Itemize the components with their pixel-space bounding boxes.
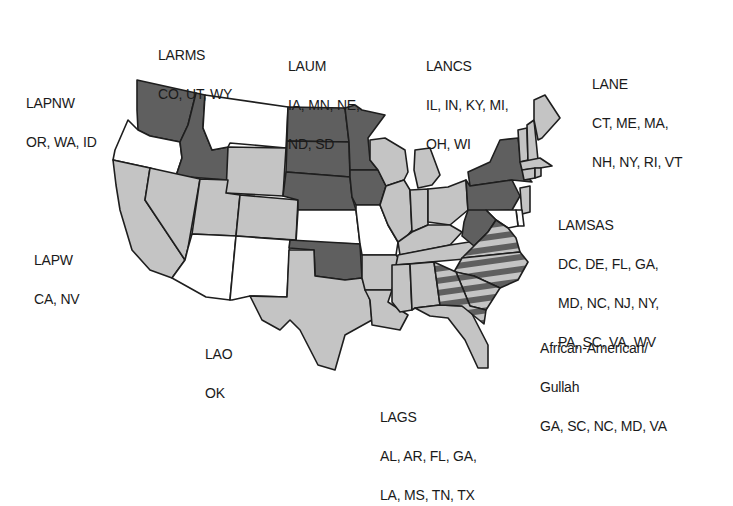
label-lags-title: LAGS xyxy=(380,411,477,424)
label-lapw-states: CA, NV xyxy=(34,293,79,306)
state-wy xyxy=(226,147,286,196)
label-lane: LANE CT, ME, MA, NH, NY, RI, VT xyxy=(592,52,682,182)
state-co xyxy=(236,195,298,240)
label-lao-states: OK xyxy=(205,387,232,400)
label-lamsas-title: LAMSAS xyxy=(558,219,659,232)
label-laum-states-2: ND, SD xyxy=(288,138,360,151)
label-lags-states-1: AL, AR, FL, GA, xyxy=(380,450,477,463)
state-oh xyxy=(428,180,468,225)
label-lapw: LAPW CA, NV xyxy=(34,228,79,319)
label-lamsas-states-1: DC, DE, FL, GA, xyxy=(558,258,659,271)
label-lancs-states-2: OH, WI xyxy=(426,138,508,151)
label-aa-gullah-title: African-American/ xyxy=(540,342,667,355)
label-lapw-title: LAPW xyxy=(34,254,79,267)
label-aa-gullah-line-2: Gullah xyxy=(540,381,667,394)
label-larms: LARMS CO, UT, WY xyxy=(158,23,232,114)
label-lancs: LANCS IL, IN, KY, MI, OH, WI xyxy=(426,34,508,164)
label-laum-states-1: IA, MN, NE, xyxy=(288,99,360,112)
state-nm xyxy=(230,236,290,300)
label-lamsas-states-2: MD, NC, NJ, NY, xyxy=(558,297,659,310)
label-laum: LAUM IA, MN, NE, ND, SD xyxy=(288,34,360,164)
label-lane-states-2: NH, NY, RI, VT xyxy=(592,156,682,169)
label-lapnw: LAPNW OR, WA, ID xyxy=(26,71,97,162)
label-lao: LAO OK xyxy=(205,322,232,413)
label-larms-states: CO, UT, WY xyxy=(158,88,232,101)
state-ms xyxy=(392,264,412,312)
label-laum-title: LAUM xyxy=(288,60,360,73)
state-ct xyxy=(522,168,535,180)
state-ri xyxy=(535,168,541,178)
label-lags-states-2: LA, MS, TN, TX xyxy=(380,489,477,502)
label-lapnw-states: OR, WA, ID xyxy=(26,136,97,149)
label-lags: LAGS AL, AR, FL, GA, LA, MS, TN, TX xyxy=(380,385,477,506)
state-pa xyxy=(466,180,520,212)
label-lane-title: LANE xyxy=(592,78,682,91)
label-lancs-title: LANCS xyxy=(426,60,508,73)
label-lao-title: LAO xyxy=(205,348,232,361)
state-ks xyxy=(296,210,360,244)
label-aa-gullah-states: GA, SC, NC, MD, VA xyxy=(540,420,667,433)
label-lancs-states-1: IL, IN, KY, MI, xyxy=(426,99,508,112)
label-aa-gullah: African-American/ Gullah GA, SC, NC, MD,… xyxy=(540,316,667,446)
label-lapnw-title: LAPNW xyxy=(26,97,97,110)
label-larms-title: LARMS xyxy=(158,49,232,62)
state-me xyxy=(534,95,560,140)
label-lane-states-1: CT, ME, MA, xyxy=(592,117,682,130)
